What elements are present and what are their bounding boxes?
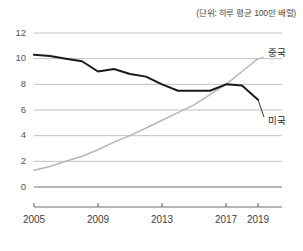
usa-leader-line (258, 100, 264, 117)
y-axis-tick-labels: 024681012 (15, 27, 26, 192)
x-axis (34, 187, 282, 207)
y-tick-label: 8 (21, 78, 26, 89)
x-axis-tick-labels: 20052009201320172019 (23, 214, 270, 225)
series-line (34, 55, 258, 100)
y-tick-label: 4 (21, 129, 26, 140)
series-label-china: 중국 (268, 47, 286, 58)
x-tick-label: 2017 (215, 214, 238, 225)
y-tick-label: 2 (21, 155, 26, 166)
x-tick-label: 2009 (87, 214, 110, 225)
y-tick-label: 0 (21, 181, 26, 192)
y-tick-label: 10 (15, 52, 26, 63)
series-label-usa: 미국 (268, 115, 286, 126)
gridlines (34, 33, 282, 161)
x-tick-label: 2019 (247, 214, 270, 225)
chart-container: (단위: 하루 평균 100만 배럴) 024681012 2005200920… (0, 0, 303, 251)
y-tick-label: 12 (15, 27, 26, 38)
x-tick-label: 2005 (23, 214, 46, 225)
series-lines (34, 55, 258, 171)
series-line (34, 59, 258, 171)
x-tick-label: 2013 (151, 214, 174, 225)
y-tick-label: 6 (21, 104, 26, 115)
line-chart-plot: 024681012 20052009201320172019 중국미국 (0, 0, 303, 251)
